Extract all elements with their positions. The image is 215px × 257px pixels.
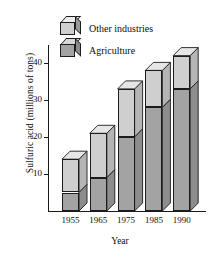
legend-label-other-industries: Other industries [89, 23, 153, 34]
chart-figure: Sulfuric acid (millions of tons) 10 20 3… [0, 0, 215, 257]
x-tick-label-1985: 1985 [138, 215, 169, 225]
x-axis-title: Year [40, 236, 200, 246]
cube-icon-dark [60, 38, 82, 58]
cube-icon-light [60, 16, 82, 36]
x-tick-label-1955: 1955 [55, 215, 86, 225]
x-tick-label-1965: 1965 [83, 215, 114, 225]
bar-segment-other-industries-1990[interactable] [173, 56, 190, 89]
bar-side-agriculture-1990 [190, 81, 198, 211]
legend-label-agriculture: Agriculture [89, 45, 135, 56]
x-tick-label-1975: 1975 [111, 215, 142, 225]
x-tick-label-1990: 1990 [166, 215, 197, 225]
bar-segment-agriculture-1990[interactable] [173, 89, 190, 211]
